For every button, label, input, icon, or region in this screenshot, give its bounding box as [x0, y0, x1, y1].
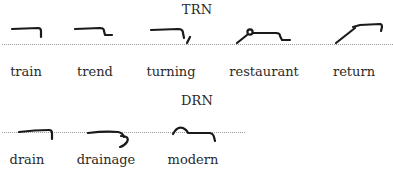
word-return: return	[333, 64, 375, 79]
word-drainage: drainage	[77, 152, 136, 167]
drainage-outline	[88, 132, 128, 147]
turning-outline	[151, 29, 190, 43]
word-restaurant: restaurant	[229, 64, 299, 79]
word-train: train	[10, 64, 42, 79]
trend-outline	[75, 28, 112, 35]
word-modern: modern	[168, 152, 219, 167]
return-outline	[336, 24, 382, 43]
restaurant-outline	[237, 29, 290, 43]
word-trend: trend	[77, 64, 113, 79]
modern-outline	[173, 128, 215, 141]
word-drain: drain	[10, 152, 45, 167]
drain-outline	[19, 130, 52, 139]
word-turning: turning	[146, 64, 195, 79]
train-outline	[12, 28, 41, 37]
